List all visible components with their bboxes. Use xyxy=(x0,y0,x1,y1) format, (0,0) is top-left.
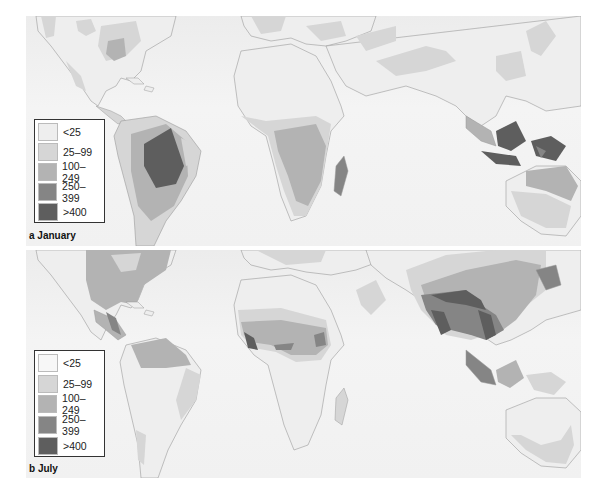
map-panel-july: <25 25–99 100–249 250–399 >400 b July xyxy=(26,250,581,478)
legend-item: 100–249 xyxy=(38,162,101,182)
legend-item: <25 xyxy=(38,353,101,374)
panel-label-january: a January xyxy=(29,230,76,241)
legend-label: 25–99 xyxy=(63,146,92,158)
legend-label: 25–99 xyxy=(63,378,92,390)
legend-swatch xyxy=(38,437,58,455)
world-precipitation-map-january xyxy=(26,16,581,246)
legend-label: 250–399 xyxy=(62,180,101,204)
legend-swatch xyxy=(38,375,58,393)
legend-label: <25 xyxy=(63,357,81,369)
map-panel-january: <25 25–99 100–249 250–399 >400 a January xyxy=(26,16,581,246)
panel-label-july: b July xyxy=(29,463,58,474)
legend-swatch xyxy=(38,203,58,221)
legend-item: >400 xyxy=(38,202,101,222)
legend-swatch xyxy=(38,143,58,161)
legend-july: <25 25–99 100–249 250–399 >400 xyxy=(34,350,105,457)
legend-item: 100–249 xyxy=(38,394,101,415)
legend-item: 250–399 xyxy=(38,182,101,202)
legend-label: >400 xyxy=(63,206,87,218)
legend-item: 250–399 xyxy=(38,415,101,436)
legend-swatch xyxy=(38,395,57,413)
legend-swatch xyxy=(38,416,57,434)
legend-item: 25–99 xyxy=(38,142,101,162)
legend-swatch xyxy=(38,183,57,201)
legend-label: >400 xyxy=(63,440,87,452)
legend-label: 250–399 xyxy=(62,413,101,437)
legend-item: 25–99 xyxy=(38,374,101,395)
legend-item: >400 xyxy=(38,435,101,456)
legend-item: <25 xyxy=(38,122,101,142)
legend-swatch xyxy=(38,123,58,141)
legend-label: <25 xyxy=(63,126,81,138)
legend-january: <25 25–99 100–249 250–399 >400 xyxy=(34,119,105,223)
legend-swatch xyxy=(38,163,57,181)
legend-swatch xyxy=(38,354,58,372)
world-precipitation-map-july xyxy=(26,250,581,478)
